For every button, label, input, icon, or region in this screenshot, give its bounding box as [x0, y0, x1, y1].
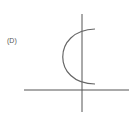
- graph: [0, 0, 137, 127]
- diagram-canvas: (D): [0, 0, 137, 127]
- curve: [63, 29, 95, 84]
